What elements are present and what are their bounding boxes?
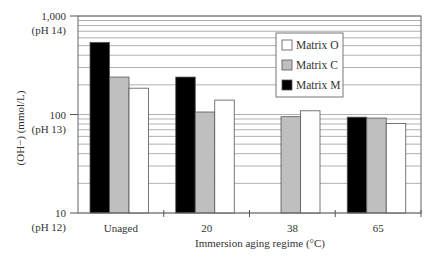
bar-matrix-c-unaged bbox=[110, 77, 130, 213]
x-tick-label: Unaged bbox=[104, 222, 139, 234]
legend-swatch-matrix-m bbox=[282, 80, 292, 90]
y-tick-sublabel: (pH 14) bbox=[31, 24, 66, 37]
legend-label: Matrix M bbox=[296, 79, 340, 91]
bar-matrix-m-65 bbox=[347, 117, 367, 213]
y-tick-sublabel: (pH 12) bbox=[31, 221, 66, 234]
y-tick-label: 10 bbox=[55, 207, 67, 219]
bar-matrix-o-unaged bbox=[129, 88, 149, 213]
x-tick-label: 38 bbox=[287, 222, 299, 234]
x-tick-label: 65 bbox=[373, 222, 385, 234]
bar-matrix-m-unaged bbox=[90, 42, 110, 213]
y-tick-sublabel: (pH 13) bbox=[31, 123, 66, 136]
x-tick-label: 20 bbox=[201, 222, 213, 234]
bar-matrix-o-65 bbox=[386, 124, 406, 213]
bar-matrix-c-20 bbox=[195, 112, 215, 213]
x-axis-ticks: Unaged203865 bbox=[104, 210, 421, 234]
y-tick-label: 100 bbox=[50, 109, 67, 121]
y-axis-title: (OH−) (mmol/L) bbox=[14, 90, 27, 165]
legend-label: Matrix O bbox=[296, 39, 338, 51]
bar-matrix-m-20 bbox=[176, 77, 196, 213]
bar-matrix-o-20 bbox=[215, 100, 235, 213]
y-axis-ticks: 1,000(pH 14)100(pH 13)10(pH 12) bbox=[31, 10, 78, 234]
bar-chart: 1,000(pH 14)100(pH 13)10(pH 12) Unaged20… bbox=[0, 0, 436, 267]
legend: Matrix OMatrix CMatrix M bbox=[276, 33, 343, 97]
bar-matrix-c-38 bbox=[281, 117, 301, 213]
bar-matrix-c-65 bbox=[367, 118, 387, 213]
bar-matrix-o-38 bbox=[301, 111, 321, 213]
legend-swatch-matrix-o bbox=[282, 40, 292, 50]
y-tick-label: 1,000 bbox=[41, 10, 66, 22]
x-axis-title: Immersion aging regime (°C) bbox=[195, 237, 325, 250]
legend-label: Matrix C bbox=[296, 59, 338, 71]
legend-swatch-matrix-c bbox=[282, 60, 292, 70]
